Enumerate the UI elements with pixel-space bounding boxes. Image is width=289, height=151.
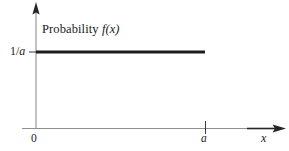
origin-label: 0: [31, 133, 37, 145]
axis-title-prefix: Probability: [42, 22, 102, 36]
uniform-distribution-figure: Probability f(x) 1/a 0 a x: [0, 0, 289, 151]
y-tick-label-1a: 1/a: [10, 45, 25, 57]
axis-title: Probability f(x): [42, 23, 120, 36]
y-tick-label-denominator: a: [19, 44, 25, 58]
y-tick-label-numerator: 1/: [10, 44, 19, 58]
axis-title-function: f(x): [102, 22, 120, 36]
x-tick-label-a: a: [201, 133, 207, 145]
x-axis-name-label: x: [261, 132, 266, 144]
